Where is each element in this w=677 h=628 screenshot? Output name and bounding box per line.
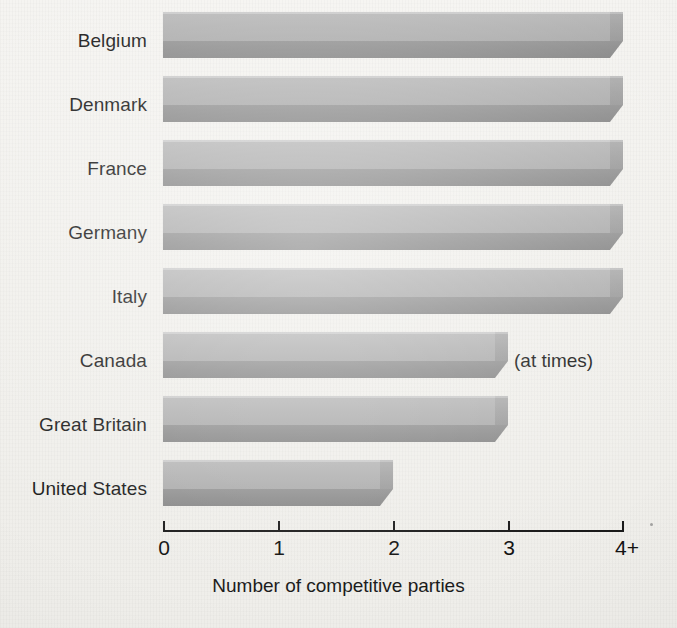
bar-bottom-face bbox=[163, 361, 508, 378]
bar-highlight bbox=[163, 76, 623, 78]
bar-bottom-face bbox=[163, 489, 393, 506]
bar-body bbox=[163, 332, 508, 378]
bar-top-face bbox=[163, 140, 623, 169]
bar-bottom-face bbox=[163, 41, 623, 58]
bar-italy bbox=[163, 268, 623, 314]
bar-body bbox=[163, 268, 623, 314]
x-tick-0 bbox=[163, 521, 165, 531]
bar-body bbox=[163, 76, 623, 122]
bar-bevel-cap bbox=[495, 396, 508, 425]
bar-top-face bbox=[163, 76, 623, 105]
bar-germany bbox=[163, 204, 623, 250]
category-label-france: France bbox=[87, 159, 147, 178]
bar-top-face bbox=[163, 332, 508, 361]
bar-bottom-face bbox=[163, 233, 623, 250]
bar-denmark bbox=[163, 76, 623, 122]
bar-body bbox=[163, 140, 623, 186]
x-tick-1 bbox=[278, 521, 280, 531]
bar-top-face bbox=[163, 268, 623, 297]
category-label-united-states: United States bbox=[32, 479, 147, 498]
scan-speck bbox=[650, 523, 653, 526]
bar-top-face bbox=[163, 12, 623, 41]
bar-chart-figure: Belgium Denmark France Germany Italy Can… bbox=[0, 0, 677, 628]
bar-bevel-cap bbox=[610, 268, 623, 297]
bar-highlight bbox=[163, 460, 393, 462]
bar-bottom-face bbox=[163, 425, 508, 442]
x-axis-title: Number of competitive parties bbox=[0, 575, 677, 597]
x-tick-label-4: 4+ bbox=[615, 537, 639, 559]
bar-highlight bbox=[163, 268, 623, 270]
bar-canada bbox=[163, 332, 508, 378]
category-label-canada: Canada bbox=[80, 351, 147, 370]
bar-bottom-face bbox=[163, 105, 623, 122]
bar-bevel-cap bbox=[610, 204, 623, 233]
bar-great-britain bbox=[163, 396, 508, 442]
bar-belgium bbox=[163, 12, 623, 58]
bar-top-face bbox=[163, 396, 508, 425]
bar-bevel-cap bbox=[380, 460, 393, 489]
bar-bevel-cap bbox=[495, 332, 508, 361]
annotation-at-times: (at times) bbox=[514, 351, 593, 370]
category-label-italy: Italy bbox=[112, 287, 147, 306]
bar-france bbox=[163, 140, 623, 186]
bar-highlight bbox=[163, 332, 508, 334]
category-label-germany: Germany bbox=[68, 223, 147, 242]
category-label-great-britain: Great Britain bbox=[39, 415, 147, 434]
x-tick-label-3: 3 bbox=[503, 537, 515, 559]
bar-top-face bbox=[163, 460, 393, 489]
bar-highlight bbox=[163, 12, 623, 14]
plot-area: Belgium Denmark France Germany Italy Can… bbox=[0, 0, 677, 628]
bar-bevel-cap bbox=[610, 140, 623, 169]
x-tick-4 bbox=[622, 521, 624, 531]
bar-top-face bbox=[163, 204, 623, 233]
bar-highlight bbox=[163, 396, 508, 398]
bar-bottom-face bbox=[163, 297, 623, 314]
x-tick-2 bbox=[393, 521, 395, 531]
bar-united-states bbox=[163, 460, 393, 506]
bar-highlight bbox=[163, 204, 623, 206]
bar-bevel-cap bbox=[610, 12, 623, 41]
bar-body bbox=[163, 12, 623, 58]
x-tick-label-0: 0 bbox=[158, 537, 170, 559]
category-label-denmark: Denmark bbox=[69, 95, 147, 114]
bar-body bbox=[163, 460, 393, 506]
x-tick-3 bbox=[508, 521, 510, 531]
bar-highlight bbox=[163, 140, 623, 142]
category-label-belgium: Belgium bbox=[78, 31, 147, 50]
x-tick-label-2: 2 bbox=[388, 537, 400, 559]
x-tick-label-1: 1 bbox=[273, 537, 285, 559]
bar-bottom-face bbox=[163, 169, 623, 186]
bar-bevel-cap bbox=[610, 76, 623, 105]
bar-body bbox=[163, 204, 623, 250]
bar-body bbox=[163, 396, 508, 442]
